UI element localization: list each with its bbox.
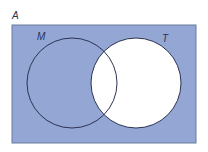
set-t-label: T bbox=[162, 33, 169, 44]
universe-label: A bbox=[11, 10, 19, 21]
set-m-label: M bbox=[37, 31, 46, 42]
venn-diagram: A M T bbox=[0, 0, 208, 152]
